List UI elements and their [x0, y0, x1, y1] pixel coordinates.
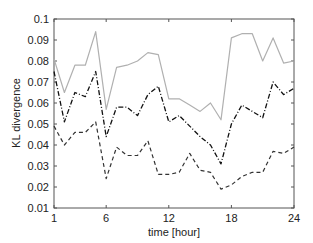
y-axis-label: KL divergence	[10, 78, 22, 148]
x-tick-label: 6	[103, 212, 109, 224]
y-tick-label: 0.02	[28, 181, 49, 193]
y-tick-label: 0.04	[28, 139, 49, 151]
x-axis-label: time [hour]	[148, 226, 200, 238]
series-dash-dot-black	[54, 72, 294, 164]
series-dashed-dark	[54, 122, 294, 189]
y-tick-label: 0.1	[34, 13, 49, 25]
x-tick-label: 24	[288, 212, 300, 224]
plot-area: 161218240.010.020.030.040.050.060.070.08…	[28, 13, 301, 224]
y-tick-label: 0.06	[28, 97, 49, 109]
x-tick-label: 18	[225, 212, 237, 224]
y-tick-label: 0.07	[28, 76, 49, 88]
x-tick-label: 12	[163, 212, 175, 224]
kl-divergence-chart: 161218240.010.020.030.040.050.060.070.08…	[0, 0, 313, 243]
x-tick-label: 1	[51, 212, 57, 224]
y-tick-label: 0.08	[28, 55, 49, 67]
y-tick-label: 0.01	[28, 202, 49, 214]
series-solid-gray	[54, 32, 294, 120]
y-tick-label: 0.05	[28, 118, 49, 130]
y-tick-label: 0.03	[28, 160, 49, 172]
y-tick-label: 0.09	[28, 34, 49, 46]
